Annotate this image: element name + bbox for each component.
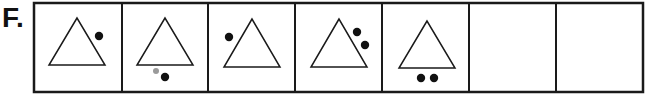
faint-dot-icon	[153, 68, 159, 74]
dot-icon	[95, 32, 103, 40]
dot-icon	[225, 33, 233, 41]
dot-icon	[417, 74, 425, 82]
dot-icon	[430, 74, 438, 82]
dot-icon	[353, 28, 361, 36]
dot-icon	[161, 73, 169, 81]
dot-icon	[361, 41, 369, 49]
pattern-sequence	[0, 0, 646, 98]
sequence-frame	[34, 3, 643, 92]
